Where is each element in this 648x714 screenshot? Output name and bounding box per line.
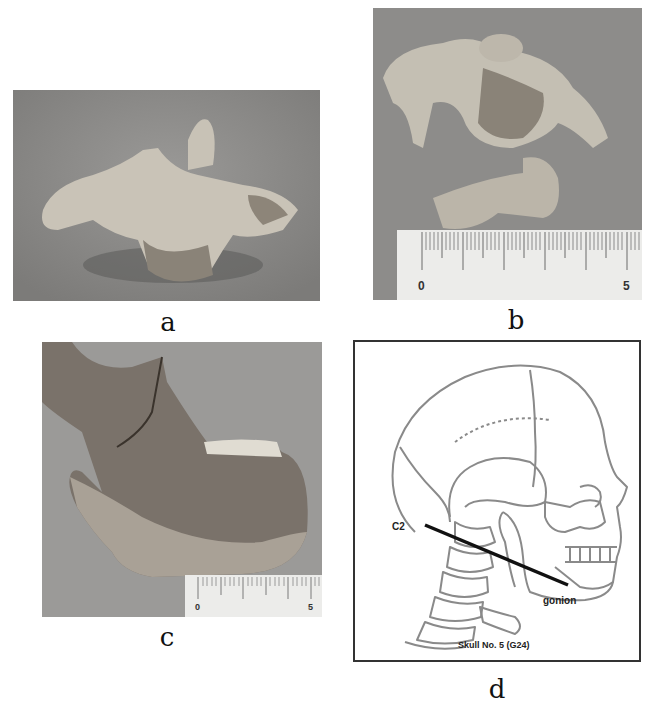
panel-c-photo: 0 5 (42, 342, 322, 617)
ruler-ticks (185, 575, 322, 617)
c2-annotation: C2 (392, 521, 405, 532)
scale-ruler: 0 5 (397, 230, 642, 300)
panel-c-label: c (147, 624, 187, 650)
gonion-annotation: gonion (543, 595, 576, 606)
ruler-end-label: 5 (308, 602, 313, 612)
scale-ruler: 0 5 (185, 575, 322, 617)
panel-d-label: d (477, 676, 517, 702)
panel-d-diagram: C2 gonion Skull No. 5 (G24) (353, 340, 641, 662)
ruler-start-label: 0 (418, 279, 425, 293)
diagram-caption: Skull No. 5 (G24) (458, 640, 530, 650)
panel-b-photo: 0 5 (373, 8, 642, 300)
ruler-ticks (397, 230, 642, 300)
vertebra-image (13, 90, 320, 301)
skull-diagram: C2 gonion Skull No. 5 (G24) (355, 342, 639, 660)
c2-gonion-line (425, 525, 568, 585)
panel-a-photo (13, 90, 320, 301)
ruler-start-label: 0 (195, 602, 200, 612)
panel-a-label: a (148, 309, 188, 335)
panel-b-label: b (496, 307, 536, 333)
ruler-end-label: 5 (623, 279, 630, 293)
